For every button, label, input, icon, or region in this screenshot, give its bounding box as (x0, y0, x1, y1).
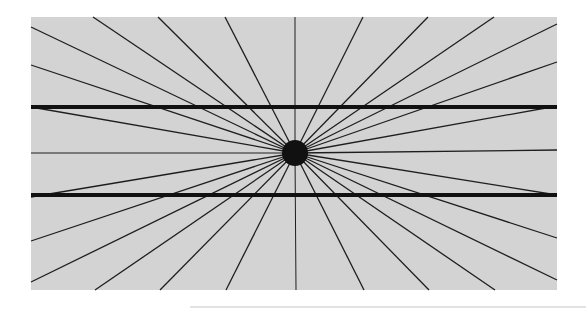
divider-line (190, 306, 586, 308)
hering-illusion-figure (0, 0, 586, 309)
center-dot (282, 140, 308, 166)
